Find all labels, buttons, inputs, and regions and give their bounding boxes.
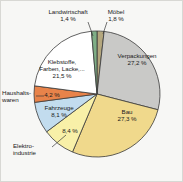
- slice-label-elektro-line1: Elektro-: [13, 142, 34, 149]
- slice-label-elektro: Elektro- industrie: [13, 142, 55, 156]
- slice-value-elektro: 8,4 %: [57, 127, 83, 134]
- slice-label-haushalt-line2: waren: [2, 96, 38, 103]
- slice-label-bau-name: Bau: [122, 108, 133, 115]
- slice-value-moebel: 1,8 %: [101, 15, 131, 22]
- slice-label-bau: Bau 27,3 %: [110, 108, 144, 122]
- slice-value-landwirtschaft: 1,4 %: [39, 15, 97, 22]
- slice-value-haushalt: 4,2 %: [40, 91, 64, 98]
- slice-label-haushalt-line1: Haushalts-: [2, 89, 31, 96]
- slice-label-fahrzeuge-name: Fahrzeuge: [44, 104, 73, 111]
- slice-label-klebstoffe-line1: Klebstoffe,: [48, 58, 77, 65]
- slice-label-klebstoffe: Klebstoffe, Farben, Lacke,... 21,5 %: [34, 58, 90, 80]
- slice-label-klebstoffe-line2: Farben, Lacke,...: [34, 65, 90, 72]
- slice-value-bau: 27,3 %: [110, 115, 144, 122]
- slice-label-elektro-line2: industrie: [13, 149, 55, 156]
- slice-label-moebel-name: Möbel: [108, 8, 125, 15]
- slice-value-fahrzeuge: 8,1 %: [40, 111, 78, 118]
- slice-label-landwirtschaft: Landwirtschaft 1,4 %: [39, 8, 97, 22]
- slice-label-haushalt: Haushalts- waren: [2, 89, 38, 103]
- slice-label-landwirtschaft-name: Landwirtschaft: [48, 8, 87, 15]
- pie-chart-figure: Landwirtschaft 1,4 % Möbel 1,8 % Verpack…: [0, 0, 183, 182]
- slice-label-fahrzeuge: Fahrzeuge 8,1 %: [40, 104, 78, 118]
- slice-label-verpackungen: Verpackungen 27,2 %: [113, 52, 161, 66]
- slice-value-verpackungen: 27,2 %: [113, 59, 161, 66]
- slice-label-verpackungen-name: Verpackungen: [118, 52, 157, 59]
- slice-value-klebstoffe: 21,5 %: [34, 72, 90, 79]
- slice-label-moebel: Möbel 1,8 %: [101, 8, 131, 22]
